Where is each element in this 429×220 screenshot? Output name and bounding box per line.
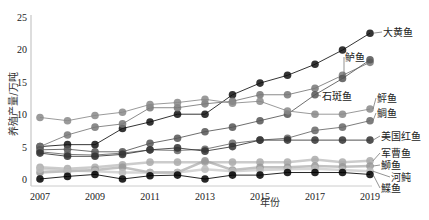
data-point [146, 172, 154, 180]
x-tick-label: 2011 [140, 191, 160, 202]
series-label: 鰤鱼 [381, 159, 401, 171]
data-point [284, 91, 292, 99]
leader-line [373, 174, 380, 188]
data-point [146, 140, 154, 148]
data-point [119, 120, 127, 128]
data-point [229, 171, 237, 179]
y-axis-title: 养殖产量/万吨 [7, 72, 19, 135]
data-point [284, 136, 292, 144]
series-label: 大黄鱼 [383, 26, 413, 38]
series-label: 鲷鱼 [377, 107, 397, 119]
data-point [174, 144, 182, 152]
data-point [284, 107, 292, 115]
y-tick-label: 20 [17, 44, 27, 55]
x-tick-label: 2013 [195, 191, 215, 202]
data-point [64, 173, 72, 181]
data-point [366, 171, 374, 179]
data-point [91, 153, 99, 161]
y-tick-label: 5 [22, 142, 27, 153]
data-point [366, 105, 374, 113]
data-point [201, 110, 209, 118]
data-point [174, 134, 182, 142]
data-point [119, 169, 127, 177]
data-point [91, 171, 99, 179]
data-point [339, 136, 347, 144]
data-point [311, 136, 319, 144]
data-point [91, 123, 99, 131]
data-point [174, 99, 182, 107]
data-point [311, 169, 319, 177]
data-point [366, 136, 374, 144]
y-tick-label: 0 [22, 174, 27, 185]
data-point [284, 169, 292, 177]
data-point [311, 127, 319, 135]
data-point [119, 108, 127, 116]
series-line [36, 59, 374, 151]
data-point [201, 157, 209, 165]
data-point [146, 101, 154, 109]
data-point [36, 114, 44, 122]
data-point [201, 147, 209, 155]
data-point [339, 75, 347, 83]
data-point [201, 95, 209, 103]
series-label: 美国红鱼 [381, 130, 421, 142]
data-point [64, 131, 72, 139]
data-point [339, 110, 347, 118]
data-point [311, 110, 319, 118]
data-point [201, 165, 209, 173]
leader-line [373, 136, 380, 140]
data-point [36, 149, 44, 157]
data-point [256, 171, 264, 179]
line-chart: 05101520252007200920112013201520172019 大… [0, 0, 429, 220]
leader-line [373, 98, 376, 109]
data-point [366, 29, 374, 37]
data-point [174, 158, 182, 166]
data-point [256, 117, 264, 125]
data-point [174, 171, 182, 179]
axes: 05101520252007200920112013201520172019 [17, 12, 380, 202]
series-label: 鲆鱼 [377, 92, 397, 104]
data-point [64, 153, 72, 161]
data-point [311, 84, 319, 92]
x-tick-label: 2007 [30, 191, 50, 202]
data-point [311, 91, 319, 99]
data-point [201, 175, 209, 183]
y-tick-label: 25 [17, 12, 27, 23]
data-point [229, 123, 237, 131]
data-point [119, 151, 127, 159]
data-point [311, 61, 319, 69]
data-point [339, 123, 347, 131]
data-point [146, 158, 154, 166]
data-point [311, 156, 319, 164]
data-point [229, 158, 237, 166]
series-label: 石斑鱼 [322, 90, 352, 102]
data-point [146, 118, 154, 126]
data-point [339, 169, 347, 177]
data-point [229, 143, 237, 151]
data-point [64, 117, 72, 125]
leader-line [373, 171, 390, 177]
data-point [366, 117, 374, 125]
data-point [146, 146, 154, 154]
data-point [36, 175, 44, 183]
data-point [91, 112, 99, 120]
series-line [36, 136, 374, 160]
series-label: 军曹鱼 [381, 147, 411, 159]
series-layer [36, 29, 374, 182]
data-point [119, 175, 127, 183]
data-point [174, 110, 182, 118]
leader-line [373, 32, 382, 33]
data-point [201, 128, 209, 136]
data-point [256, 97, 264, 105]
leader-line [373, 165, 380, 166]
x-tick-label: 2019 [360, 191, 380, 202]
data-point [366, 56, 374, 64]
data-point [229, 91, 237, 99]
data-point [91, 141, 99, 149]
series-label: 河鲀 [391, 171, 411, 183]
series-label: 鰈鱼 [381, 182, 401, 194]
leader-line [373, 153, 380, 161]
data-point [256, 136, 264, 144]
data-point [256, 91, 264, 99]
x-tick-label: 2009 [85, 191, 105, 202]
